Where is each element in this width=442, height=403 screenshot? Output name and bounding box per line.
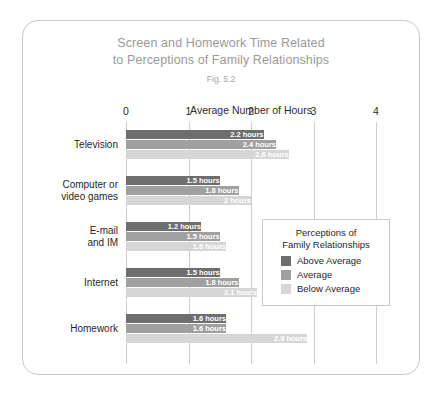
- bar-row: 2.9 hours: [126, 334, 376, 343]
- legend-item[interactable]: Above Average: [281, 255, 381, 266]
- bar-group: 2.2 hours2.4 hours2.6 hours: [126, 130, 376, 160]
- category-label: Computer orvideo games: [26, 179, 118, 203]
- figure-title-block: Screen and Homework Time Related to Perc…: [23, 35, 419, 84]
- category-label-line: video games: [26, 191, 118, 203]
- bar-value-label: 1.8 hours: [126, 186, 242, 195]
- bar-value-label: 2 hours: [126, 196, 254, 205]
- bar-value-label: 1.5 hours: [126, 232, 223, 241]
- category-label-line: Computer or: [26, 179, 118, 191]
- figure-title-line-2: to Perceptions of Family Relationships: [23, 52, 419, 69]
- category-label-line: and IM: [26, 237, 118, 249]
- category-label: Homework: [26, 323, 118, 335]
- bar-row: 1.8 hours: [126, 186, 376, 195]
- category-label: E-mailand IM: [26, 225, 118, 249]
- category-label-line: Internet: [26, 277, 118, 289]
- figure-card: Screen and Homework Time Related to Perc…: [22, 20, 420, 375]
- x-tick-label: 4: [361, 105, 391, 117]
- bar-row: 2.6 hours: [126, 150, 376, 159]
- bar-value-label: 1.5 hours: [126, 268, 223, 277]
- bar-value-label: 2.1 hours: [126, 288, 260, 297]
- category-label-line: Homework: [26, 323, 118, 335]
- bar-row: 1.6 hours: [126, 314, 376, 323]
- legend-item[interactable]: Average: [281, 269, 381, 280]
- bar-row: 2.2 hours: [126, 130, 376, 139]
- chart-legend: Perceptions of Family Relationships Abov…: [262, 219, 390, 306]
- bar-row: 1.6 hours: [126, 324, 376, 333]
- category-label: Television: [26, 139, 118, 151]
- category-axis-labels: TelevisionComputer orvideo gamesE-mailan…: [26, 122, 118, 364]
- x-tick-label: 1: [174, 105, 204, 117]
- bar-group: 1.5 hours1.8 hours2 hours: [126, 176, 376, 206]
- bar-value-label: 2.6 hours: [126, 150, 292, 159]
- legend-label: Below Average: [297, 283, 360, 294]
- category-label-line: Television: [26, 139, 118, 151]
- legend-items: Above AverageAverageBelow Average: [271, 255, 381, 294]
- x-tick-label: 3: [299, 105, 329, 117]
- bar-value-label: 1.6 hours: [126, 242, 229, 251]
- legend-swatch-icon: [281, 270, 291, 280]
- legend-label: Above Average: [297, 255, 361, 266]
- legend-title: Perceptions of Family Relationships: [271, 227, 381, 250]
- bar-value-label: 2.2 hours: [126, 130, 267, 139]
- bar-row: 1.5 hours: [126, 176, 376, 185]
- bar-value-label: 1.6 hours: [126, 314, 229, 323]
- bar-value-label: 1.5 hours: [126, 176, 223, 185]
- legend-title-line-1: Perceptions of: [271, 227, 381, 239]
- x-tick-label: 0: [111, 105, 141, 117]
- bar-value-label: 1.2 hours: [126, 222, 204, 231]
- legend-title-line-2: Family Relationships: [271, 239, 381, 251]
- legend-swatch-icon: [281, 256, 291, 266]
- legend-item[interactable]: Below Average: [281, 283, 381, 294]
- legend-label: Average: [297, 269, 332, 280]
- bar-value-label: 1.8 hours: [126, 278, 242, 287]
- bar-group: 1.6 hours1.6 hours2.9 hours: [126, 314, 376, 344]
- bar-value-label: 1.6 hours: [126, 324, 229, 333]
- legend-swatch-icon: [281, 284, 291, 294]
- bar-row: 2 hours: [126, 196, 376, 205]
- figure-number: Fig. 5.2: [23, 74, 419, 84]
- category-label-line: E-mail: [26, 225, 118, 237]
- x-tick-label: 2: [236, 105, 266, 117]
- bar-value-label: 2.9 hours: [126, 334, 310, 343]
- figure-title-line-1: Screen and Homework Time Related: [23, 35, 419, 52]
- bar-row: 2.4 hours: [126, 140, 376, 149]
- category-label: Internet: [26, 277, 118, 289]
- bar-value-label: 2.4 hours: [126, 140, 279, 149]
